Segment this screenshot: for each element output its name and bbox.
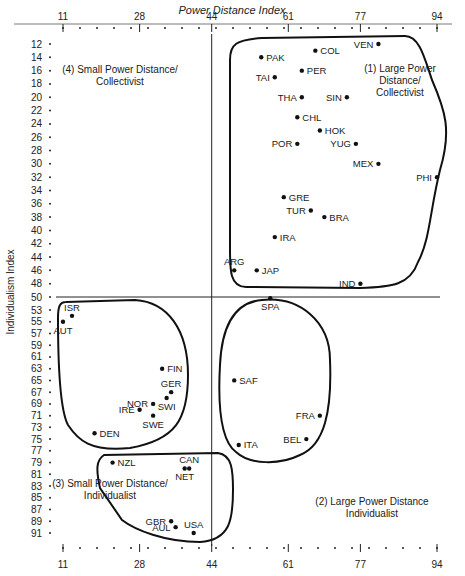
y-tick-label: 77 — [31, 445, 43, 456]
quadrant-1-label: Distance/ — [379, 75, 421, 86]
data-point-ita — [237, 443, 241, 447]
y-tick-label: 63 — [31, 363, 43, 374]
x-tick-top-dot — [164, 27, 166, 29]
x-tick-bottom-dot — [283, 547, 285, 549]
x-tick-bottom-dot — [334, 547, 336, 549]
data-label-aut: AUT — [54, 325, 73, 336]
x-tick-top-dot — [317, 27, 319, 29]
data-point-pak — [259, 55, 263, 59]
data-label-tur: TUR — [286, 205, 306, 216]
data-point-hok — [318, 128, 322, 132]
y-tick-dot — [49, 485, 51, 487]
y-tick-label: 55 — [31, 316, 43, 327]
data-label-spa: SPA — [261, 301, 280, 312]
data-point-aul — [173, 525, 177, 529]
y-tick-label: 12 — [31, 39, 43, 50]
data-point-gre — [282, 195, 286, 199]
x-tick-top-label: 28 — [134, 11, 146, 22]
x-tick-top-dot — [232, 27, 234, 29]
quadrant-2-label: (2) Large Power Distance — [315, 496, 429, 507]
data-label-pak: PAK — [266, 52, 285, 63]
x-tick-top-dot — [351, 27, 353, 29]
y-tick-label: 28 — [31, 145, 43, 156]
data-label-bel: BEL — [283, 434, 301, 445]
quadrant-3-label: Individualist — [84, 490, 136, 501]
data-label-sin: SIN — [326, 92, 342, 103]
y-tick-dot — [49, 356, 51, 358]
x-tick-bottom-dot — [266, 547, 268, 549]
x-tick-top-dot — [181, 27, 183, 29]
y-tick-label: 89 — [31, 516, 43, 527]
y-tick-dot — [49, 216, 51, 218]
y-tick-label: 36 — [31, 198, 43, 209]
scatter-chart: Power Distance Index Individualism Index… — [0, 0, 465, 576]
x-tick-bottom-dot — [317, 547, 319, 549]
data-label-fra: FRA — [296, 410, 316, 421]
data-point-aut — [61, 320, 65, 324]
data-point-nzl — [110, 460, 114, 464]
y-tick-dot — [49, 56, 51, 58]
x-tick-bottom-dot — [351, 547, 353, 549]
data-label-ind: IND — [339, 278, 356, 289]
data-point-bel — [304, 437, 308, 441]
x-tick-top-dot — [402, 27, 404, 29]
data-point-saf — [232, 378, 236, 382]
y-tick-dot — [49, 368, 51, 370]
y-tick-label: 38 — [31, 212, 43, 223]
y-tick-dot — [49, 110, 51, 112]
data-label-den: DEN — [100, 428, 120, 439]
x-tick-top-dot — [249, 27, 251, 29]
x-tick-bottom-label: 28 — [134, 559, 146, 570]
y-tick-label: 69 — [31, 398, 43, 409]
data-label-por: POR — [272, 138, 293, 149]
cluster-4-outline — [58, 300, 188, 449]
x-tick-top-dot — [385, 27, 387, 29]
x-tick-bottom-label: 77 — [355, 559, 367, 570]
data-point-fin — [160, 366, 164, 370]
data-label-chl: CHL — [302, 112, 321, 123]
y-tick-dot — [49, 520, 51, 522]
y-tick-dot — [49, 344, 51, 346]
data-point-sin — [345, 95, 349, 99]
data-label-arg: ARG — [224, 256, 245, 267]
x-tick-top-dot — [130, 27, 132, 29]
x-tick-bottom-dot — [419, 547, 421, 549]
y-tick-dot — [49, 123, 51, 125]
data-point-spa — [268, 296, 272, 300]
data-label-net: NET — [175, 471, 194, 482]
data-point-col — [313, 48, 317, 52]
data-point-tur — [309, 208, 313, 212]
data-point-per — [300, 68, 304, 72]
data-label-tha: THA — [278, 92, 298, 103]
y-tick-label: 42 — [31, 238, 43, 249]
y-tick-label: 65 — [31, 375, 43, 386]
data-label-bra: BRA — [329, 212, 349, 223]
y-tick-label: 71 — [31, 410, 43, 421]
data-point-nor — [151, 402, 155, 406]
y-tick-label: 87 — [31, 504, 43, 515]
data-label-isr: ISR — [64, 302, 80, 313]
y-tick-dot — [49, 497, 51, 499]
y-tick-label: 24 — [31, 118, 43, 129]
data-label-gre: GRE — [289, 192, 310, 203]
quadrant-4-label: (4) Small Power Distance/ — [62, 64, 178, 75]
x-tick-bottom-dot — [79, 547, 81, 549]
y-tick-dot — [49, 532, 51, 534]
y-tick-dot — [49, 43, 51, 45]
y-tick-dot — [49, 83, 51, 85]
y-tick-label: 50 — [31, 292, 43, 303]
data-point-ire — [137, 408, 141, 412]
data-label-tai: TAI — [256, 72, 270, 83]
data-point-ira — [273, 235, 277, 239]
x-tick-top-dot — [266, 27, 268, 29]
x-tick-bottom-dot — [232, 547, 234, 549]
data-label-aul: AUL — [152, 522, 170, 533]
x-tick-bottom-dot — [249, 547, 251, 549]
y-tick-dot — [49, 176, 51, 178]
y-tick-label: 61 — [31, 351, 43, 362]
x-tick-top-dot — [79, 27, 81, 29]
data-point-swi — [164, 396, 168, 400]
y-tick-dot — [49, 403, 51, 405]
y-tick-dot — [49, 426, 51, 428]
y-tick-label: 75 — [31, 434, 43, 445]
